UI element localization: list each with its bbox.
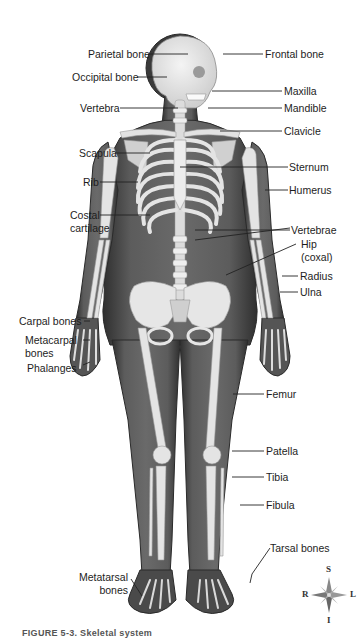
sternum [174, 140, 186, 210]
compass-right: R [302, 589, 309, 599]
compass-inferior: I [327, 615, 331, 625]
label-metacarpal-bones-line1: Metacarpal [25, 334, 77, 346]
label-costal-cartilage-line1: Costal [70, 209, 100, 221]
label-phalanges: Phalanges [27, 362, 77, 374]
compass-rose: S I R L [300, 567, 356, 625]
label-radius: Radius [300, 270, 333, 282]
label-fibula: Fibula [266, 499, 295, 511]
label-tarsal-bones: Tarsal bones [270, 542, 330, 554]
label-mandible: Mandible [284, 102, 327, 114]
compass-superior: S [326, 564, 331, 574]
label-humerus: Humerus [289, 184, 332, 196]
skull [152, 36, 217, 108]
label-maxilla: Maxilla [284, 85, 317, 97]
label-vertebra: Vertebra [80, 102, 120, 114]
label-clavicle: Clavicle [284, 125, 321, 137]
figure-caption: FIGURE 5-3. Skeletal system [22, 628, 152, 638]
compass-left: L [350, 589, 356, 599]
label-hip-line2: (coxal) [301, 251, 333, 263]
label-sternum: Sternum [289, 161, 329, 173]
label-frontal-bone: Frontal bone [265, 48, 324, 60]
label-metatarsal-bones-line1: Metatarsal [78, 571, 128, 583]
label-carpal-bones: Carpal bones [19, 315, 81, 327]
label-hip-line1: Hip [301, 238, 317, 250]
label-scapula: Scapula [79, 147, 117, 159]
label-metatarsal-bones-line2: bones [78, 584, 128, 596]
label-femur: Femur [266, 388, 296, 400]
label-occipital-bone: Occipital bone [72, 71, 139, 83]
label-vertebrae: Vertebrae [291, 224, 337, 236]
label-metacarpal-bones-line2: bones [25, 347, 54, 359]
label-patella: Patella [266, 445, 298, 457]
label-parietal-bone: Parietal bone [88, 48, 150, 60]
label-tibia: Tibia [266, 471, 288, 483]
label-costal-cartilage-line2: cartilage [70, 222, 110, 234]
label-ulna: Ulna [300, 286, 322, 298]
label-rib: Rib [83, 176, 99, 188]
